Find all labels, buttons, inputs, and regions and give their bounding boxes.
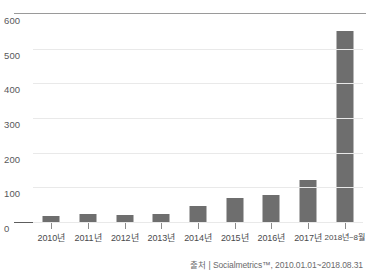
gridline-0 — [33, 222, 363, 223]
plot-area: 2010년2011년2012년2013년2014년2015년2016년2017년… — [33, 14, 363, 222]
x-axis-tick-mark — [345, 222, 346, 229]
x-axis-tick-label: 2017년 — [294, 231, 322, 244]
x-axis-tick-label: 2014년 — [184, 231, 212, 244]
y-axis-tick-label: 0 — [4, 224, 9, 234]
x-axis-tick-mark — [51, 222, 52, 229]
gridline-100 — [33, 187, 363, 188]
x-axis-tick-label: 2011년 — [75, 231, 102, 244]
bar — [153, 214, 170, 222]
y-axis-tick-label: 300 — [4, 120, 20, 130]
x-axis-tick-label: 2016년 — [258, 231, 286, 244]
bar-chart: 2010년2011년2012년2013년2014년2015년2016년2017년… — [0, 0, 371, 274]
x-axis-tick-mark — [125, 222, 126, 229]
bar — [189, 206, 206, 222]
x-axis-tick-mark — [308, 222, 309, 229]
bar — [116, 215, 133, 222]
y-axis-tick-label: 500 — [4, 51, 20, 61]
bar — [226, 198, 243, 222]
x-axis-tick-label: 2015년 — [221, 231, 249, 244]
x-axis-tick-label: 2010년 — [38, 231, 66, 244]
x-axis-tick-mark — [161, 222, 162, 229]
y-axis-tick-label: 400 — [4, 85, 20, 95]
x-axis-tick-label: 2018년~8월 — [325, 231, 365, 242]
bar — [79, 214, 96, 222]
x-axis-tick-label: 2012년 — [111, 231, 139, 244]
bar — [336, 31, 353, 222]
x-axis-tick-mark — [198, 222, 199, 229]
gridline-300 — [33, 118, 363, 119]
y-axis-tick-label: 100 — [4, 189, 20, 199]
gridline-500 — [33, 49, 363, 50]
y-axis-tick-label: 600 — [4, 16, 20, 26]
x-axis-tick-mark — [271, 222, 272, 229]
gridline-400 — [33, 83, 363, 84]
source-caption: 출처 | Socialmetrics™, 2010.01.01~2018.08.… — [190, 258, 363, 270]
y-axis-tick-label: 200 — [4, 155, 20, 165]
x-axis-tick-mark — [88, 222, 89, 229]
gridline-200 — [33, 153, 363, 154]
bar — [263, 195, 280, 222]
x-axis-tick-label: 2013년 — [148, 231, 176, 244]
x-axis-tick-mark — [235, 222, 236, 229]
